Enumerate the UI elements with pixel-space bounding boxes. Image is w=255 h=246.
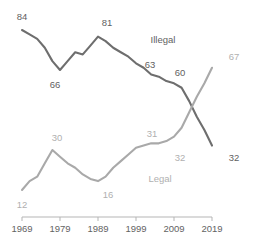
x-axis-tick-label: 1979 [49, 223, 70, 234]
line-chart: 196919791989199920092019 846681636032123… [0, 0, 255, 246]
data-label-legal-1989: 16 [103, 189, 114, 200]
data-label-illegal-1969: 84 [17, 11, 28, 22]
data-label-legal-2019: 67 [229, 51, 240, 62]
x-axis-tick-label: 2019 [201, 223, 222, 234]
series-label-illegal: Illegal [151, 34, 176, 45]
x-axis [22, 217, 212, 221]
data-point-labels: 846681636032123016313267 [17, 11, 240, 210]
x-axis-tick-label: 1969 [11, 223, 32, 234]
data-label-illegal-2019: 32 [229, 152, 240, 163]
data-label-illegal-1989: 81 [102, 17, 113, 28]
data-label-illegal-1979: 66 [50, 79, 61, 90]
data-label-legal-1969: 12 [17, 199, 28, 210]
chart-container: 196919791989199920092019 846681636032123… [0, 0, 255, 246]
data-label-legal-1999: 31 [147, 128, 158, 139]
x-axis-tick-label: 1989 [87, 223, 108, 234]
data-label-illegal-2009: 60 [175, 67, 186, 78]
data-label-illegal-2005: 63 [145, 59, 156, 70]
x-axis-tick-label: 1999 [125, 223, 146, 234]
series-inline-labels: IllegalLegal [148, 34, 175, 184]
data-label-legal-2005: 32 [175, 152, 186, 163]
data-label-legal-1977: 30 [52, 132, 63, 143]
x-axis-tick-label: 2009 [163, 223, 184, 234]
series-layer [22, 30, 212, 190]
x-axis-tick-labels: 196919791989199920092019 [11, 223, 222, 234]
series-label-legal: Legal [148, 173, 171, 184]
